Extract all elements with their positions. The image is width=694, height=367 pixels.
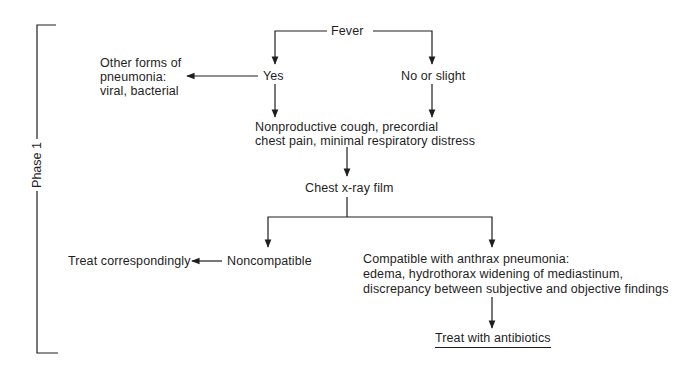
node-treat-antibiotics: Treat with antibiotics xyxy=(435,331,551,348)
node-compatible-line2: edema, hydrothorax widening of mediastin… xyxy=(363,267,623,281)
node-other-forms-line2: pneumonia: xyxy=(100,70,166,84)
node-symptoms-line1: Nonproductive cough, precordial xyxy=(255,120,438,134)
node-compatible-line3: discrepancy between subjective and objec… xyxy=(363,282,668,296)
node-compatible-line1: Compatible with anthrax pneumonia: xyxy=(363,252,569,266)
node-chest-xray: Chest x-ray film xyxy=(305,181,393,195)
node-other-forms-line3: viral, bacterial xyxy=(100,84,179,98)
node-treat-correspondingly: Treat correspondingly xyxy=(68,254,191,268)
node-no-or-slight: No or slight xyxy=(401,69,465,83)
node-other-forms-line1: Other forms of xyxy=(100,56,181,70)
node-yes: Yes xyxy=(263,69,284,83)
phase-label: Phase 1 xyxy=(30,139,44,191)
node-symptoms-line2: chest pain, minimal respiratory distress xyxy=(255,134,475,148)
node-fever: Fever xyxy=(331,24,363,38)
node-noncompatible: Noncompatible xyxy=(227,254,312,268)
